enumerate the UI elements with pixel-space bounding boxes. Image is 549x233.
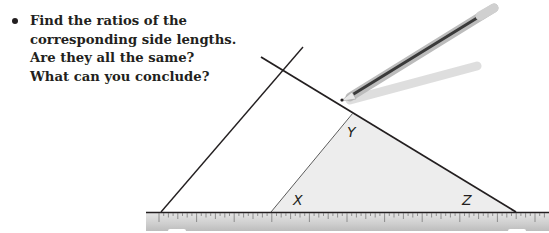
pencil-icon [340, 8, 494, 102]
vertex-label-z: Z [461, 192, 472, 208]
triangle-xyz [271, 114, 516, 212]
large-triangle-left-side [161, 47, 303, 212]
vertex-label-y: Y [347, 124, 357, 140]
similar-triangles-figure: Y X Z [0, 0, 549, 233]
vertex-label-x: X [292, 192, 303, 208]
ruler [146, 212, 549, 233]
